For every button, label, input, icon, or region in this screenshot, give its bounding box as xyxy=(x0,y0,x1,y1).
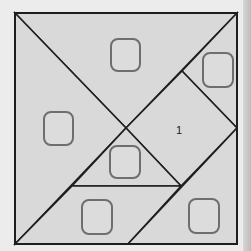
slot-bottom-left[interactable] xyxy=(82,200,112,234)
slot-top[interactable] xyxy=(111,39,140,71)
slot-middle[interactable] xyxy=(110,146,140,178)
slot-top-right[interactable] xyxy=(203,53,233,87)
piece-number-label: 1 xyxy=(176,124,182,136)
slot-left[interactable] xyxy=(44,112,73,145)
tangram-board: 1 xyxy=(0,0,251,251)
slot-bottom-right[interactable] xyxy=(189,199,219,233)
